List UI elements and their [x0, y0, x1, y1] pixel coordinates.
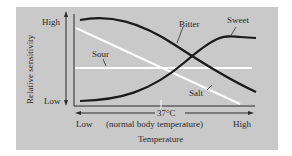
- x-high-label: High: [233, 119, 252, 129]
- x-note-label: (normal body temperature): [106, 119, 203, 129]
- x-low-label: Low: [76, 119, 93, 129]
- x-axis-title: Temperature: [138, 134, 183, 144]
- plot-frame: [74, 14, 255, 106]
- x-marker-label: 37°C: [157, 108, 176, 118]
- label-sweet: Sweet: [227, 15, 249, 25]
- label-salt: Salt: [189, 88, 204, 98]
- label-bitter: Bitter: [179, 19, 200, 29]
- taste-sensitivity-chart: Bitter Sweet Sour Salt High Low Relative…: [0, 0, 292, 156]
- label-sour: Sour: [92, 49, 109, 59]
- y-high-label: High: [42, 17, 61, 27]
- y-axis-title: Relative sensitivity: [25, 34, 35, 104]
- y-low-label: Low: [44, 96, 61, 106]
- y-axis-arrow: [64, 11, 68, 106]
